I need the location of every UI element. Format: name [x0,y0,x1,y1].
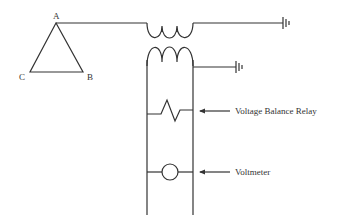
relay-arrow-icon [199,109,230,114]
circuit-diagram: A B C Voltage Balance Relay Voltmete [0,0,343,224]
relay-zigzag-icon [147,100,193,121]
voltmeter-label: Voltmeter [235,167,270,177]
node-label-a: A [53,11,60,21]
voltmeter-arrow-icon [199,170,230,175]
secondary-coil-icon [147,47,193,66]
voltage-balance-relay-label: Voltage Balance Relay [235,106,317,116]
node-label-b: B [87,72,93,82]
voltmeter-icon [147,164,193,180]
ground-icon [236,61,242,73]
primary-coil-icon [147,23,193,38]
ground-icon [283,17,289,29]
delta-triangle [30,23,83,72]
node-label-c: C [19,72,25,82]
